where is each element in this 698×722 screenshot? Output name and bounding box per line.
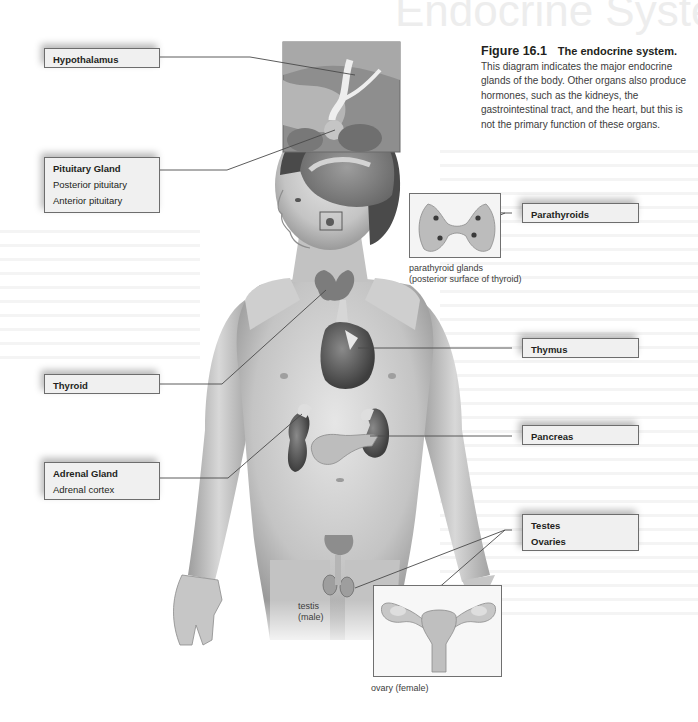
figure-caption: Figure 16.1 The endocrine system. This d… (481, 44, 698, 132)
label-thyroid: Thyroid (44, 374, 160, 394)
label-pancreas-title: Pancreas (531, 429, 630, 445)
label-ovaries-title: Ovaries (531, 534, 630, 550)
testis-caption: testis (male) (298, 601, 324, 623)
parathyroid-caption: parathyroid glands (posterior surface of… (409, 263, 522, 285)
figure-caption-text: This diagram indicates the major endocri… (481, 60, 698, 133)
label-thyroid-title: Thyroid (53, 378, 151, 394)
label-testes-title: Testes (531, 518, 630, 534)
testis-caption-line-2: (male) (298, 612, 324, 623)
label-adrenal-cortex: Adrenal cortex (53, 482, 151, 498)
label-parathyroids-title: Parathyroids (531, 207, 630, 223)
label-pituitary-title: Pituitary Gland (53, 161, 151, 177)
label-pituitary-gland: Pituitary Gland Posterior pituitary Ante… (44, 157, 160, 213)
figure-title: The endocrine system. (558, 45, 677, 57)
thyroid-posterior-icon (410, 194, 501, 258)
label-testes-ovaries: Testes Ovaries (522, 514, 639, 551)
ovary-inset-image (373, 585, 502, 677)
label-anterior-pituitary: Anterior pituitary (53, 193, 151, 209)
label-hypothalamus: Hypothalamus (44, 48, 160, 68)
label-parathyroids: Parathyroids (522, 203, 639, 223)
label-hypothalamus-title: Hypothalamus (53, 52, 151, 68)
ovary-caption: ovary (female) (371, 683, 429, 694)
label-thymus-title: Thymus (531, 342, 630, 358)
parathyroid-caption-line-1: parathyroid glands (409, 263, 522, 274)
testis-caption-line-1: testis (298, 601, 324, 612)
label-pancreas: Pancreas (522, 425, 639, 445)
parathyroid-caption-line-2: (posterior surface of thyroid) (409, 274, 522, 285)
label-thymus: Thymus (522, 338, 639, 358)
label-adrenal-gland: Adrenal Gland Adrenal cortex (44, 462, 160, 500)
parathyroid-inset-image (409, 193, 501, 258)
label-adrenal-title: Adrenal Gland (53, 466, 151, 482)
figure-number: Figure 16.1 (481, 44, 547, 58)
uterus-ovary-icon (374, 586, 502, 677)
label-posterior-pituitary: Posterior pituitary (53, 177, 151, 193)
